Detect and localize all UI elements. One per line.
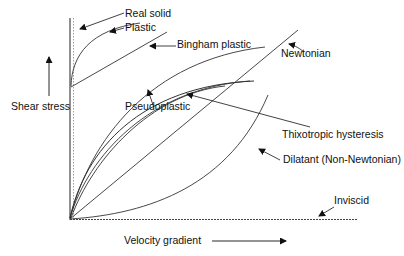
inviscid-leader xyxy=(319,207,334,216)
label-dilatant: Dilatant (Non-Newtonian) xyxy=(283,154,401,165)
real-solid-leader xyxy=(80,13,124,29)
label-real-solid: Real solid xyxy=(125,8,171,19)
label-thixotropic-hysteresis: Thixotropic hysteresis xyxy=(282,129,384,140)
newtonian-line xyxy=(70,30,298,219)
bingham-line xyxy=(71,32,167,87)
label-inviscid: Inviscid xyxy=(334,195,369,206)
y-axis-label: Shear stress xyxy=(11,101,70,112)
label-newtonian: Newtonian xyxy=(281,48,331,59)
label-bingham-plastic: Bingham plastic xyxy=(177,39,251,50)
upper-pseudoplastic-curve xyxy=(70,47,265,218)
dilatant-leader xyxy=(259,149,280,160)
thixotropic-leader xyxy=(187,94,310,127)
rheology-diagram: Real solid Plastic Bingham plastic Newto… xyxy=(0,0,404,256)
x-axis-label: Velocity gradient xyxy=(124,235,201,246)
label-plastic: Plastic xyxy=(125,22,156,33)
dilatant-curve xyxy=(70,95,268,219)
label-pseudoplastic: Pseudoplastic xyxy=(125,101,190,112)
